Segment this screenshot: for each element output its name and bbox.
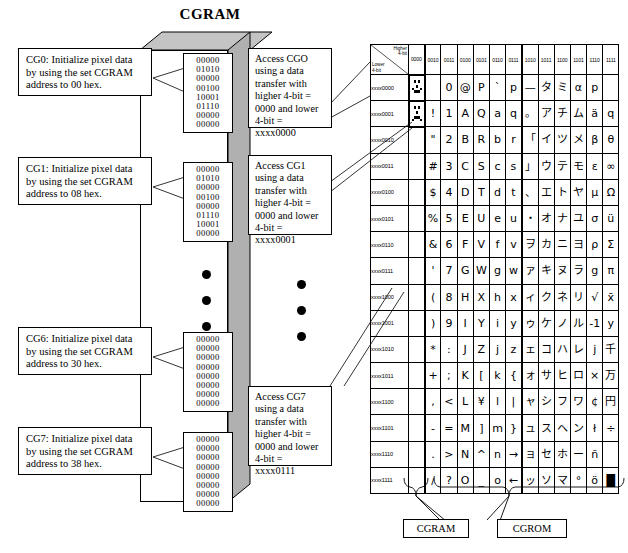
cgrom-cell xyxy=(603,441,619,467)
row-header: xxxx0000 xyxy=(371,75,409,101)
character-glyph: ロ xyxy=(571,363,586,388)
cgrom-cell: = xyxy=(441,415,457,441)
cgram-cell xyxy=(409,101,425,127)
cgrom-cell: 7 xyxy=(441,258,457,284)
character-glyph: f xyxy=(490,232,505,257)
cgrom-cell: ハ xyxy=(554,336,570,362)
column-header: 0000 xyxy=(409,45,425,75)
cg-row: 00000 xyxy=(184,120,232,129)
character-glyph: シ xyxy=(539,389,554,414)
character-glyph: x xyxy=(506,285,521,310)
character-glyph: ナ xyxy=(555,206,570,231)
cgrom-cell: π xyxy=(603,258,619,284)
cgrom-cell: , xyxy=(425,389,441,415)
ellipsis-dots-callouts xyxy=(297,280,306,358)
character-glyph: ク xyxy=(539,285,554,310)
character-glyph: ] xyxy=(474,415,489,440)
cgram-cell xyxy=(409,179,425,205)
character-glyph: @ xyxy=(458,75,473,100)
character-glyph: ア xyxy=(539,101,554,126)
row-header: xxxx0010 xyxy=(371,127,409,153)
character-glyph: h xyxy=(490,285,505,310)
character-glyph: i xyxy=(490,311,505,336)
character-glyph: } xyxy=(506,415,521,440)
row-header: xxxx0111 xyxy=(371,258,409,284)
character-glyph: - xyxy=(426,415,441,440)
cgrom-cell: コ xyxy=(538,336,554,362)
character-glyph: K xyxy=(458,363,473,388)
cgrom-cell: 4 xyxy=(441,179,457,205)
cgrom-cell: ミ xyxy=(554,75,570,101)
table-corner-header: Higher4-bit Lower4-bit xyxy=(371,45,409,75)
row-header: xxxx0110 xyxy=(371,232,409,258)
cgrom-cell: ス xyxy=(538,415,554,441)
row-header: xxxx1000 xyxy=(371,284,409,310)
callout-cg7: CG7: Initialize pixel data by using the … xyxy=(18,427,152,475)
ellipsis-dots-cgram xyxy=(202,270,211,348)
character-glyph: ス xyxy=(539,415,554,440)
character-glyph: ケ xyxy=(539,311,554,336)
character-glyph: " xyxy=(426,127,441,152)
cgrom-cell: ノ xyxy=(554,310,570,336)
cgrom-cell: $ xyxy=(425,179,441,205)
character-glyph: 千 xyxy=(603,337,618,362)
cgrom-cell: β xyxy=(587,127,603,153)
cgrom-cell: — xyxy=(522,75,538,101)
cgrom-cell: Ω xyxy=(603,179,619,205)
cgrom-cell: チ xyxy=(554,101,570,127)
character-glyph: ヨ xyxy=(571,232,586,257)
character-glyph: > xyxy=(441,442,456,467)
cgram-cell xyxy=(409,310,425,336)
character-glyph: ー xyxy=(571,442,586,467)
character-glyph: ョ xyxy=(523,442,538,467)
cgrom-cell: ー xyxy=(570,441,586,467)
character-glyph: ? xyxy=(441,468,456,493)
cgrom-cell: ' xyxy=(425,258,441,284)
character-glyph: 4 xyxy=(441,180,456,205)
cgrom-cell: a xyxy=(489,101,505,127)
cgrom-cell: ` xyxy=(489,75,505,101)
character-glyph: ミ xyxy=(555,75,570,100)
cgrom-cell: J xyxy=(457,336,473,362)
cgrom-cell: ° xyxy=(570,467,586,493)
cgrom-cell: I xyxy=(457,310,473,336)
character-glyph: μ xyxy=(587,180,602,205)
cgrom-cell: タ xyxy=(538,75,554,101)
cgrom-cell: Q xyxy=(473,101,489,127)
cgrom-cell: ッ xyxy=(522,467,538,493)
character-glyph: ィ xyxy=(523,285,538,310)
character-glyph: k xyxy=(490,363,505,388)
cgrom-cell: ラ xyxy=(570,258,586,284)
character-glyph: n xyxy=(490,442,505,467)
cgrom-cell: n xyxy=(489,441,505,467)
character-code-table: Higher4-bit Lower4-bit 00000010001101000… xyxy=(370,44,619,494)
character-glyph: z xyxy=(506,337,521,362)
cgrom-cell: { xyxy=(506,363,522,389)
character-glyph: ü xyxy=(603,206,618,231)
callout-cg6: CG6: Initialize pixel data by using the … xyxy=(18,327,152,375)
character-glyph: Σ xyxy=(603,232,618,257)
character-glyph: ñ xyxy=(587,442,602,467)
character-glyph: ラ xyxy=(571,258,586,283)
cgrom-cell: ナ xyxy=(554,205,570,231)
cgrom-cell: ^ xyxy=(473,441,489,467)
character-glyph: ウ xyxy=(539,154,554,179)
character-glyph: P xyxy=(474,75,489,100)
character-glyph: H xyxy=(458,285,473,310)
cgrom-cell: × xyxy=(587,363,603,389)
cgrom-cell: ィ xyxy=(522,284,538,310)
character-glyph: = xyxy=(441,415,456,440)
cgrom-cell: █ xyxy=(603,467,619,493)
character-glyph: ` xyxy=(490,75,505,100)
cgrom-cell: > xyxy=(441,441,457,467)
column-header: 0110 xyxy=(489,45,505,75)
character-glyph: 円 xyxy=(603,389,618,414)
row-header: xxxx1111 xyxy=(371,467,409,493)
column-header: 1110 xyxy=(587,45,603,75)
cgram-cell xyxy=(409,258,425,284)
cgrom-cell: ヨ xyxy=(570,232,586,258)
cgrom-cell: 2 xyxy=(441,127,457,153)
cgrom-cell: リ xyxy=(570,284,586,310)
character-glyph: コ xyxy=(539,337,554,362)
cgrom-cell: イ xyxy=(538,127,554,153)
